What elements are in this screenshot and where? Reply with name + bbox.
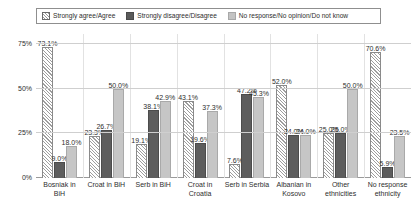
bar-value-label: 37.3% — [202, 104, 222, 111]
bar[interactable]: 50.0% — [113, 89, 124, 178]
bar-value-label: 43.1% — [178, 94, 198, 101]
bar[interactable]: 19.6% — [195, 143, 206, 178]
bar[interactable]: 7.6% — [229, 164, 240, 178]
bar-group: 52.0%24.0%24.0% — [270, 34, 317, 178]
category-label: Bosniak in BiH — [36, 181, 83, 198]
bar[interactable]: 26.7% — [101, 130, 112, 178]
bar[interactable]: 5.9% — [382, 167, 393, 178]
legend-item-no-response: No response/No opinion/Do not know — [228, 12, 348, 20]
category-label: Croat in Croatia — [177, 181, 224, 198]
plot-area: 73.1%9.0%18.0%23.3%26.7%50.0%19.1%38.1%4… — [36, 34, 411, 178]
bar[interactable]: 70.6% — [370, 52, 381, 178]
bar-group: 70.6%5.9%23.5% — [364, 34, 411, 178]
y-axis-tick-75: 75% — [0, 40, 32, 47]
legend-label-no-response: No response/No opinion/Do not know — [239, 12, 348, 20]
bar[interactable]: 47.2% — [241, 94, 252, 178]
bar-group: 7.6%47.2%45.3% — [224, 34, 271, 178]
bar[interactable]: 45.3% — [253, 97, 264, 178]
bar[interactable]: 50.0% — [347, 89, 358, 178]
category-label: Albanian in Kosovo — [270, 181, 317, 198]
bar-value-label: 18.0% — [62, 139, 82, 146]
bar-group: 25.0%25.0%50.0% — [317, 34, 364, 178]
bar-group: 19.1%38.1%42.9% — [130, 34, 177, 178]
category-labels: Bosniak in BiHCroat in BiHSerb in BiHCro… — [36, 181, 411, 198]
category-label: Other ethnicities — [317, 181, 364, 198]
bar-value-label: 52.0% — [272, 78, 292, 85]
category-label: Serb in Serbia — [224, 181, 271, 198]
bar-value-label: 70.6% — [366, 45, 386, 52]
bar[interactable]: 37.3% — [207, 111, 218, 178]
bar-groups: 73.1%9.0%18.0%23.3%26.7%50.0%19.1%38.1%4… — [36, 34, 411, 178]
category-label: Serb in BiH — [130, 181, 177, 198]
bar-group: 73.1%9.0%18.0% — [36, 34, 83, 178]
bar[interactable]: 38.1% — [148, 110, 159, 178]
legend-swatch-agree-icon — [42, 12, 50, 20]
bar[interactable]: 24.0% — [288, 135, 299, 178]
bar[interactable]: 24.0% — [300, 135, 311, 178]
bar[interactable]: 23.3% — [89, 136, 100, 178]
y-axis-tick-0: 0% — [0, 174, 32, 181]
chart-root: Strongly agree/Agree Strongly disagree/D… — [0, 0, 417, 216]
gridline-25 — [36, 132, 411, 133]
bar[interactable]: 23.5% — [394, 136, 405, 178]
bar-value-label: 42.9% — [155, 94, 175, 101]
y-axis-tick-50: 50% — [0, 85, 32, 92]
bar-value-label: 45.3% — [249, 90, 269, 97]
bar[interactable]: 9.0% — [54, 162, 65, 178]
bar[interactable]: 18.0% — [66, 146, 77, 178]
gridline-75 — [36, 43, 411, 44]
legend-swatch-no-response-icon — [228, 12, 236, 20]
category-label: No response ethnicity — [364, 181, 411, 198]
y-axis-tick-25: 25% — [0, 129, 32, 136]
category-label: Croat in BiH — [83, 181, 130, 198]
bar[interactable]: 42.9% — [160, 101, 171, 178]
chart-legend: Strongly agree/Agree Strongly disagree/D… — [36, 8, 381, 24]
legend-item-disagree: Strongly disagree/Disagree — [126, 12, 217, 20]
bar[interactable]: 25.0% — [323, 133, 334, 178]
bar[interactable]: 19.1% — [136, 144, 147, 178]
legend-label-agree: Strongly agree/Agree — [53, 12, 115, 20]
legend-swatch-disagree-icon — [126, 12, 134, 20]
legend-label-disagree: Strongly disagree/Disagree — [137, 12, 217, 20]
bar-group: 43.1%19.6%37.3% — [177, 34, 224, 178]
gridline-50 — [36, 88, 411, 89]
bar-group: 23.3%26.7%50.0% — [83, 34, 130, 178]
legend-item-agree: Strongly agree/Agree — [42, 12, 115, 20]
bar[interactable]: 25.0% — [335, 133, 346, 178]
